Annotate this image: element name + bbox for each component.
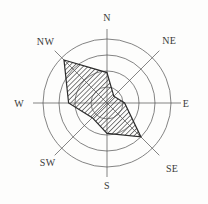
direction-label-S: S (104, 180, 110, 191)
direction-label-E: E (183, 98, 189, 109)
direction-label-N: N (103, 12, 111, 23)
direction-label-SW: SW (40, 157, 56, 168)
direction-label-NE: NE (162, 35, 176, 46)
wind-rose-chart: NNEESESSWWNW (0, 0, 208, 204)
direction-label-SE: SE (166, 163, 178, 174)
wind-rose-figure: NNEESESSWWNW (0, 0, 208, 204)
direction-label-NW: NW (37, 36, 55, 47)
direction-label-W: W (14, 98, 24, 109)
